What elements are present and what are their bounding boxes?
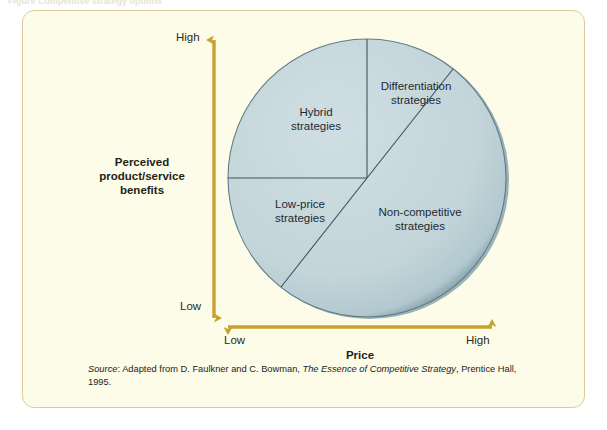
quadrant-label-non-competitive: Non-competitive strategies <box>358 205 482 233</box>
x-axis-high-label: High <box>466 334 490 346</box>
y-axis-title-line3: benefits <box>86 183 198 197</box>
source-note: Source: Adapted from D. Faulkner and C. … <box>88 363 540 388</box>
y-axis-low-label: Low <box>180 300 201 312</box>
quadrant-non-competitive-line1: Non-competitive <box>358 205 482 219</box>
quadrant-differentiation-line1: Differentiation <box>358 79 474 93</box>
figure-root: Figure Competitive strategy options <box>0 0 607 430</box>
quadrant-label-hybrid: Hybrid strategies <box>266 105 366 133</box>
source-text-before: Adapted from D. Faulkner and C. Bowman, <box>120 364 302 374</box>
y-axis-title: Perceived product/service benefits <box>86 155 198 197</box>
x-axis-title: Price <box>320 348 400 362</box>
y-axis-title-line1: Perceived <box>86 155 198 169</box>
quadrant-hybrid-line1: Hybrid <box>266 105 366 119</box>
source-label: Source <box>88 364 117 374</box>
x-axis-low-label: Low <box>224 334 245 346</box>
quadrant-non-competitive-line2: strategies <box>358 219 482 233</box>
quadrant-label-differentiation: Differentiation strategies <box>358 79 474 107</box>
quadrant-low-price-line2: strategies <box>250 211 350 225</box>
quadrant-label-low-price: Low-price strategies <box>250 197 350 225</box>
quadrant-low-price-line1: Low-price <box>250 197 350 211</box>
y-axis-title-line2: product/service <box>86 169 198 183</box>
source-italic-title: The Essence of Competitive Strategy <box>302 364 455 374</box>
figure-stage: Hybrid strategies Differentiation strate… <box>0 0 607 430</box>
quadrant-hybrid-line2: strategies <box>266 119 366 133</box>
y-axis-high-label: High <box>176 31 200 43</box>
quadrant-differentiation-line2: strategies <box>358 93 474 107</box>
